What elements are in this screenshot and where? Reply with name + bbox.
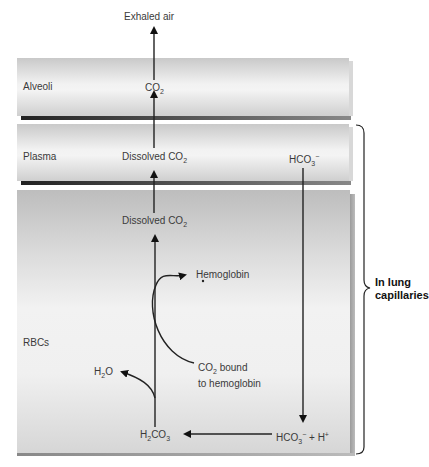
h2co3-label: H2CO3 [140, 429, 170, 445]
hemoglobin-label: Hemoglobin [196, 269, 249, 281]
h2o-label: H2O [94, 366, 113, 382]
alveoli-label: Alveoli [23, 81, 52, 93]
rbcs-label: RBCs [23, 337, 49, 349]
plasma-dissolved-co2-label: Dissolved CO2 [122, 151, 187, 167]
exhaled-air-label: Exhaled air [124, 11, 174, 23]
co2-bound-label: CO2 boundto hemoglobin [198, 362, 261, 390]
in-lung-capillaries-label: In lungcapillaries [375, 276, 429, 302]
plasma-label: Plasma [23, 151, 56, 163]
rbc-dissolved-co2-label: Dissolved CO2 [122, 215, 187, 231]
arrow-to-h2o [122, 372, 155, 398]
arrow-co2-bound-to-hemoglobin [152, 275, 194, 363]
plasma-hco3-label: HCO3− [289, 151, 319, 170]
lung-capillaries-bracket [356, 125, 370, 454]
hco3-h-label: HCO3− + H+ [276, 429, 329, 448]
alveoli-co2-label: CO2 [145, 82, 164, 98]
